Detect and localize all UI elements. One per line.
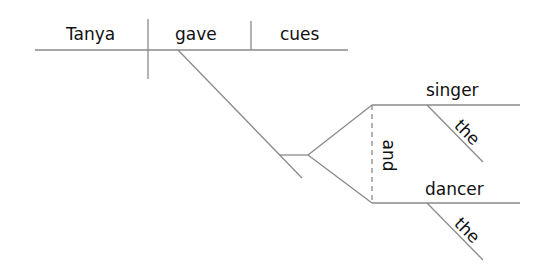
fork-lower (308, 155, 372, 203)
conjunction-word: and (380, 140, 397, 172)
indirect-object-diagonal (178, 50, 302, 178)
direct-object-word: cues (280, 26, 319, 43)
indirect-object-word-singer: singer (426, 82, 479, 99)
indirect-object-word-dancer: dancer (425, 181, 484, 198)
fork-upper (308, 105, 372, 155)
subject-word: Tanya (66, 26, 115, 43)
verb-word: gave (175, 26, 217, 43)
